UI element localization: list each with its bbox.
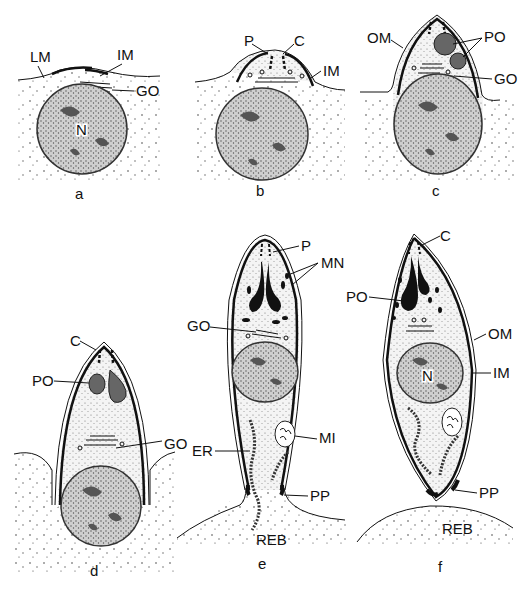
panel-e: P MN GO MI ER PP REB e bbox=[177, 235, 350, 572]
panel-label-e: e bbox=[258, 555, 266, 572]
annotation-MI: MI bbox=[319, 429, 336, 446]
panel-label-c: c bbox=[432, 182, 440, 199]
annotation-C: C bbox=[70, 332, 81, 349]
annotation-IM: IM bbox=[493, 364, 510, 381]
nucleus bbox=[394, 74, 482, 174]
nucleus bbox=[61, 466, 141, 546]
annotation-C: C bbox=[440, 227, 451, 244]
annotation-C: C bbox=[294, 32, 305, 49]
posterior-pore bbox=[248, 485, 249, 495]
annotation-PP: PP bbox=[479, 484, 499, 501]
panel-label-f: f bbox=[438, 558, 443, 575]
annotation-P: P bbox=[301, 237, 311, 254]
annotation-N: N bbox=[76, 121, 87, 138]
conoid bbox=[409, 242, 410, 254]
panel-label-a: a bbox=[75, 185, 84, 202]
annotation-GO: GO bbox=[494, 70, 517, 87]
annotation-GO: GO bbox=[187, 317, 210, 334]
annotation-MN: MN bbox=[321, 254, 344, 271]
annotation-N: N bbox=[422, 367, 433, 384]
annotation-PP: PP bbox=[310, 487, 330, 504]
annotation-OM: OM bbox=[488, 325, 512, 342]
prerhoptry bbox=[89, 374, 105, 394]
annotation-IM: IM bbox=[117, 46, 134, 63]
nucleus bbox=[216, 88, 308, 180]
figure-canvas: N N LM IM GO a P C IM b bbox=[0, 0, 531, 590]
annotation-PO: PO bbox=[346, 288, 368, 305]
annotation-REB: REB bbox=[442, 520, 473, 537]
annotation-LM: LM bbox=[30, 48, 51, 65]
conoid bbox=[99, 350, 100, 363]
annotation-P: P bbox=[244, 32, 254, 49]
annotation-ER: ER bbox=[192, 442, 213, 459]
annotation-PO: PO bbox=[32, 372, 54, 389]
panel-b: P C IM b bbox=[195, 32, 345, 199]
panel-f: N N C PO OM IM PP REB f bbox=[346, 227, 513, 575]
panel-label-b: b bbox=[256, 182, 264, 199]
annotation-IM: IM bbox=[323, 62, 340, 79]
annotation-GO: GO bbox=[136, 82, 159, 99]
annotation-PO: PO bbox=[484, 28, 506, 45]
annotation-REB: REB bbox=[256, 531, 287, 548]
panel-d: C PO GO d bbox=[14, 332, 187, 579]
panel-a: N N LM IM GO a bbox=[18, 46, 160, 202]
nucleus bbox=[232, 342, 298, 402]
annotation-OM: OM bbox=[367, 29, 391, 46]
panel-label-d: d bbox=[90, 562, 98, 579]
prerhoptry bbox=[434, 33, 456, 55]
panel-c: OM PO GO c bbox=[360, 15, 517, 199]
conoid bbox=[261, 244, 262, 256]
annotation-GO: GO bbox=[164, 435, 187, 452]
mitochondrion bbox=[275, 421, 295, 447]
mitochondrion bbox=[442, 408, 462, 436]
